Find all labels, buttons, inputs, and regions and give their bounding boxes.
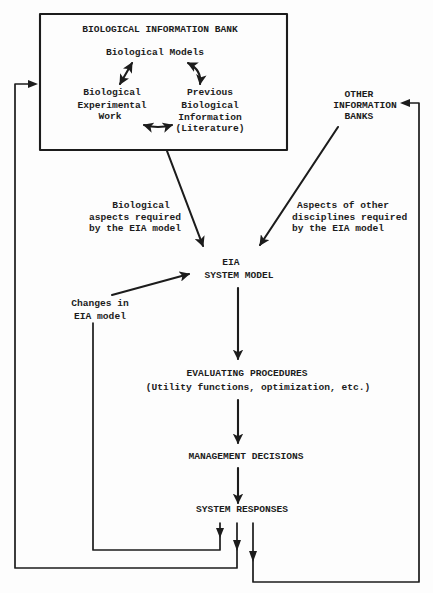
double-arrow-experimental-previous-icon: [144, 125, 172, 127]
biological-models-label: Biological Models: [106, 47, 204, 58]
other-information-banks: OTHER INFORMATION BANKS: [333, 89, 397, 122]
feedback-line-info-bank: [15, 84, 237, 568]
double-arrow-models-experimental-icon: [120, 63, 132, 84]
previous-information-node: Previous Biological Information (Literat…: [175, 87, 244, 134]
other-aspects-label: Aspects of other disciplines required by…: [292, 200, 407, 234]
previous-info-line-3: Information: [178, 112, 242, 123]
eia-system-model: EIA SYSTEM MODEL: [204, 257, 273, 281]
eia-flow-diagram: BIOLOGICAL INFORMATION BANK Biological M…: [0, 0, 433, 593]
feedback-to-changes: [93, 323, 224, 550]
other-aspects-line-2: disciplines required: [292, 212, 407, 223]
diagram-svg: BIOLOGICAL INFORMATION BANK Biological M…: [0, 0, 433, 593]
evaluating-title: EVALUATING PROCEDURES: [187, 368, 308, 379]
other-aspects-line-1: Aspects of other: [297, 200, 389, 211]
experimental-work-node: Biological Experimental Work: [77, 87, 146, 122]
previous-info-line-1: Previous: [187, 87, 233, 98]
feedback-line-changes: [93, 323, 220, 550]
info-bank-title: BIOLOGICAL INFORMATION BANK: [82, 24, 238, 35]
eia-model-line-2: SYSTEM MODEL: [204, 270, 273, 281]
arrowhead-down-icon: [249, 551, 257, 562]
arrowhead-right-icon: [28, 80, 38, 88]
changes-in-eia-model: Changes in EIA model: [71, 298, 129, 322]
previous-info-line-2: Biological: [181, 100, 239, 111]
other-banks-line-2: INFORMATION: [333, 100, 397, 111]
biological-aspects-label: Biological aspects required by the EIA m…: [89, 200, 181, 234]
other-aspects-line-3: by the EIA model: [292, 223, 384, 234]
experimental-work-line-1: Biological: [83, 87, 141, 98]
other-banks-line-3: BANKS: [345, 111, 374, 122]
experimental-work-line-3: Work: [98, 111, 121, 122]
feedback-to-info-bank: [15, 80, 241, 568]
double-arrow-models-previous-icon: [188, 63, 200, 84]
arrowhead-down-icon: [233, 540, 241, 551]
arrow-changes-to-eia-icon: [112, 274, 189, 295]
management-decisions: MANAGEMENT DECISIONS: [188, 451, 303, 462]
other-banks-line-1: OTHER: [345, 89, 374, 100]
system-responses: SYSTEM RESPONSES: [196, 504, 288, 515]
bio-aspects-line-3: by the EIA model: [89, 223, 181, 234]
bio-aspects-line-1: Biological: [112, 200, 170, 211]
changes-line-1: Changes in: [71, 298, 129, 309]
evaluating-subtitle: (Utility functions, optimization, etc.): [146, 382, 371, 393]
arrowhead-down-icon: [216, 528, 224, 538]
previous-info-line-4: (Literature): [175, 123, 244, 134]
arrowhead-left-icon: [400, 99, 410, 107]
evaluating-procedures: EVALUATING PROCEDURES (Utility functions…: [146, 368, 371, 393]
bio-aspects-line-2: aspects required: [89, 212, 181, 223]
biological-information-bank: BIOLOGICAL INFORMATION BANK Biological M…: [40, 14, 287, 150]
experimental-work-line-2: Experimental: [77, 100, 146, 111]
eia-model-line-1: EIA: [222, 257, 240, 268]
changes-line-2: EIA model: [74, 311, 126, 322]
